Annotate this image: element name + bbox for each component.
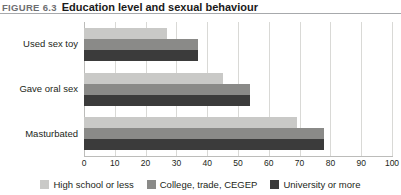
bar [84, 128, 324, 139]
legend-label: College, trade, CEGEP [160, 179, 258, 190]
legend-label: High school or less [53, 179, 133, 190]
figure-number: FIGURE 6.3 [2, 2, 57, 13]
figure-title-band: FIGURE 6.3Education level and sexual beh… [0, 0, 401, 14]
figure-title-inner: FIGURE 6.3Education level and sexual beh… [2, 0, 258, 14]
gridline-100 [392, 22, 393, 156]
bar [84, 84, 250, 95]
x-tick-label: 100 [380, 158, 401, 168]
page-title: Education level and sexual behaviour [62, 1, 258, 13]
category-label: Masturbated [0, 128, 78, 139]
category-label: Used sex toy [0, 38, 78, 49]
x-tick-label: 50 [226, 158, 250, 168]
x-axis-baseline [84, 156, 393, 157]
x-tick-label: 30 [164, 158, 188, 168]
bar [84, 28, 167, 39]
bar [84, 73, 223, 84]
x-tick-label: 90 [349, 158, 373, 168]
x-tick-label: 80 [318, 158, 342, 168]
x-tick-label: 70 [288, 158, 312, 168]
legend-swatch-icon [40, 180, 49, 189]
gridline-90 [361, 22, 362, 156]
figure-container: FIGURE 6.3Education level and sexual beh… [0, 0, 401, 195]
plot-area [84, 22, 392, 156]
legend-swatch-icon [147, 180, 156, 189]
x-tick-label: 0 [72, 158, 96, 168]
chart-legend: High school or lessCollege, trade, CEGEP… [0, 177, 401, 191]
legend-item: High school or less [40, 179, 133, 190]
legend-label: University or more [283, 179, 360, 190]
legend-swatch-icon [270, 180, 279, 189]
bar [84, 39, 198, 50]
x-tick-label: 10 [103, 158, 127, 168]
legend-item: College, trade, CEGEP [147, 179, 258, 190]
bar [84, 95, 250, 106]
x-tick-label: 20 [134, 158, 158, 168]
gridline-80 [330, 22, 331, 156]
category-label: Gave oral sex [0, 83, 78, 94]
x-tick-label: 60 [257, 158, 281, 168]
bar [84, 139, 324, 150]
bar [84, 50, 198, 61]
legend-item: University or more [270, 179, 360, 190]
bar [84, 117, 297, 128]
x-tick-label: 40 [195, 158, 219, 168]
